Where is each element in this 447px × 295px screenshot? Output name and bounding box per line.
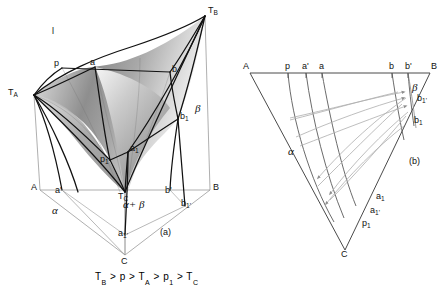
temperature-order-equation: TB > p > TA > p1 > TC	[95, 271, 199, 284]
panel-b-axis-label-b: b	[389, 62, 394, 71]
label-point-b1-prime: b1'	[181, 199, 191, 208]
panel-b-axis-label-a-prime: a'	[302, 62, 309, 71]
panel-b-triangle	[250, 73, 430, 250]
panel-a-group	[34, 16, 210, 255]
panel-b-vertex-C: C	[341, 250, 348, 259]
panel-b-axis-label-A: A	[243, 62, 249, 71]
label-point-p: p	[54, 59, 59, 68]
panel-b-axis-label-B: B	[431, 62, 437, 71]
panel-b-axis-label-a: a	[319, 62, 324, 71]
label-region-beta-a: β	[195, 103, 200, 114]
label-point-b-prime: b'	[165, 186, 172, 195]
panel-b-label-beta: β	[412, 82, 417, 93]
label-B-vertex: B	[213, 183, 219, 192]
panel-b-axis-ticks	[288, 73, 408, 78]
label-A-vertex: A	[31, 183, 37, 192]
panel-b-label-p1: p1	[362, 219, 371, 228]
panel-b-axis-label-b-prime: b'	[405, 62, 412, 71]
caption-panel-b: (b)	[409, 157, 420, 166]
phase-diagram-figure	[0, 0, 447, 295]
panel-b-axis-label-p: p	[285, 62, 290, 71]
panel-b-group	[250, 73, 430, 250]
label-region-alpha-a: α	[52, 205, 58, 216]
label-point-a: a	[90, 58, 95, 67]
panel-b-boundary-curves	[288, 73, 414, 222]
caption-panel-a: (a)	[160, 228, 171, 237]
label-point-a1-prime: a1'	[118, 229, 128, 238]
label-C-vertex: C	[121, 257, 128, 266]
label-point-b1: b1	[180, 112, 189, 121]
panel-b-label-b1: b1	[414, 116, 423, 125]
panel-b-label-b1-prime: b1'	[417, 94, 427, 103]
panel-b-label-a1: a1	[376, 192, 385, 201]
label-region-alpha-beta: α+ β	[123, 199, 144, 210]
panel-b-label-alpha: α	[288, 146, 294, 157]
panel-b-label-a1-prime: a1'	[370, 206, 380, 215]
label-TB: TB	[208, 6, 218, 15]
label-point-a1: a1	[130, 144, 139, 153]
label-liquid-region: l	[52, 27, 54, 36]
label-point-a-prime: a'	[55, 186, 62, 195]
label-point-p1: p1	[100, 155, 109, 164]
label-point-b: b	[172, 65, 177, 74]
label-TA: TA	[8, 88, 18, 97]
